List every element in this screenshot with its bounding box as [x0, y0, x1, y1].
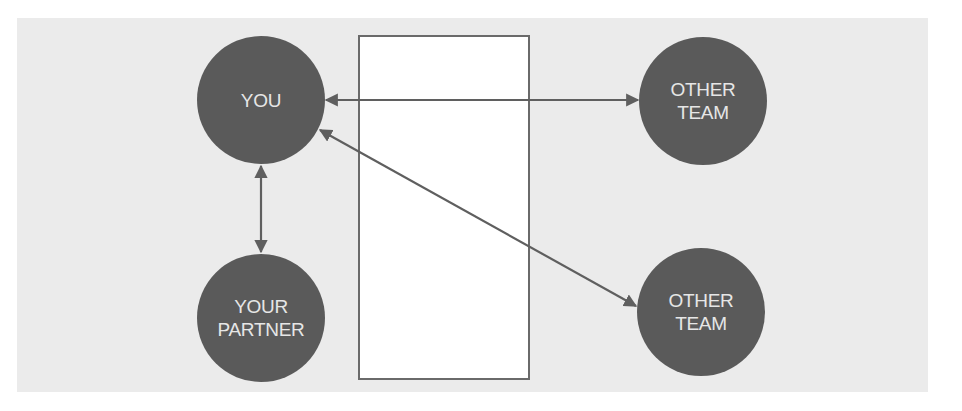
- node-you: YOU: [197, 36, 325, 164]
- node-other-team-bottom-label: OTHER TEAM: [668, 289, 733, 335]
- node-you-label: YOU: [241, 89, 281, 112]
- connector-arrows: [0, 0, 962, 411]
- node-other-team-top: OTHER TEAM: [639, 37, 767, 165]
- node-other-team-top-label: OTHER TEAM: [670, 78, 735, 124]
- node-your-partner: YOUR PARTNER: [197, 254, 325, 382]
- node-your-partner-label: YOUR PARTNER: [218, 295, 305, 341]
- arrow-you-to-other-team-bottom: [320, 130, 636, 306]
- node-other-team-bottom: OTHER TEAM: [637, 248, 765, 376]
